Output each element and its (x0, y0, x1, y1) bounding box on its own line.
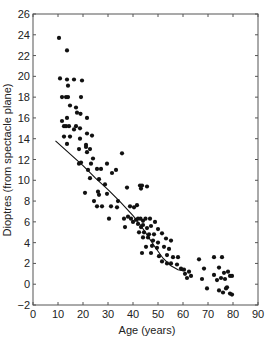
data-point (97, 193, 101, 197)
data-point (95, 167, 99, 171)
data-point (185, 276, 189, 280)
data-point (157, 254, 161, 258)
x-tick-label: 90 (252, 308, 264, 320)
data-point (84, 145, 88, 149)
data-point (149, 224, 153, 228)
data-point (88, 176, 92, 180)
data-point (219, 276, 223, 280)
plot-frame (33, 14, 258, 305)
data-point (114, 168, 118, 172)
y-tick-label: 6 (24, 216, 30, 228)
data-point (77, 147, 81, 151)
data-point (223, 277, 227, 281)
data-point (143, 217, 147, 221)
data-point (221, 290, 225, 294)
x-tick-label: 40 (127, 308, 139, 320)
data-point (160, 259, 164, 263)
data-point (72, 77, 76, 81)
data-point (144, 245, 148, 249)
data-point (176, 255, 180, 259)
data-point (202, 267, 206, 271)
data-point (78, 112, 82, 116)
data-point (92, 199, 96, 203)
data-point (205, 286, 209, 290)
x-tick-label: 20 (77, 308, 89, 320)
data-point (123, 225, 127, 229)
data-point (171, 255, 175, 259)
data-point (215, 278, 219, 282)
data-point (107, 217, 111, 221)
data-point (66, 95, 70, 99)
y-tick-label: 18 (18, 91, 30, 103)
y-tick-label: 2 (24, 257, 30, 269)
data-point (230, 293, 234, 297)
data-point (66, 84, 70, 88)
data-point (220, 255, 224, 259)
data-point (68, 103, 72, 107)
data-point (105, 192, 109, 196)
data-point (162, 245, 166, 249)
data-point (65, 77, 69, 81)
y-tick-label: 14 (18, 133, 30, 145)
data-point (120, 151, 124, 155)
x-tick-label: 10 (52, 308, 64, 320)
data-point (80, 78, 84, 82)
x-tick-label: 0 (30, 308, 36, 320)
data-point (145, 184, 149, 188)
x-axis-title: Age (years) (119, 324, 176, 336)
y-tick-label: −2 (17, 299, 30, 311)
data-point (182, 268, 186, 272)
data-point (140, 251, 144, 255)
y-tick-label: 20 (18, 70, 30, 82)
data-point (222, 271, 226, 275)
y-tick-label: 24 (18, 29, 30, 41)
data-point (217, 266, 221, 270)
y-tick-label: 12 (18, 154, 30, 166)
data-point (141, 223, 145, 227)
data-point (165, 253, 169, 257)
data-point (105, 162, 109, 166)
y-tick-label: 22 (18, 50, 30, 62)
x-tick-label: 30 (102, 308, 114, 320)
data-point (95, 204, 99, 208)
data-point (67, 124, 71, 128)
data-point (142, 230, 146, 234)
y-tick-label: 8 (24, 195, 30, 207)
data-point (91, 156, 95, 160)
plot-border (33, 14, 258, 305)
data-point (153, 220, 157, 224)
data-point (116, 199, 120, 203)
data-point (122, 217, 126, 221)
data-point (155, 246, 159, 250)
data-point (97, 177, 101, 181)
data-point (189, 274, 193, 278)
data-point (156, 227, 160, 231)
data-point (65, 116, 69, 120)
data-point (226, 270, 230, 274)
data-point (128, 204, 132, 208)
data-point (137, 230, 141, 234)
data-point (62, 135, 66, 139)
data-point (152, 232, 156, 236)
data-point (78, 137, 82, 141)
data-point (169, 239, 173, 243)
data-point (83, 191, 87, 195)
y-tick-label: 10 (18, 174, 30, 186)
data-point (100, 204, 104, 208)
data-point (224, 286, 228, 290)
x-tick-label: 50 (152, 308, 164, 320)
data-point (197, 257, 201, 261)
data-point (58, 76, 62, 80)
x-tick-label: 80 (227, 308, 239, 320)
data-point (160, 231, 164, 235)
data-point (57, 36, 61, 40)
data-point (183, 272, 187, 276)
data-point (110, 171, 114, 175)
data-point (156, 241, 160, 245)
data-point (139, 187, 143, 191)
data-point (135, 203, 139, 207)
data-point (90, 134, 94, 138)
data-point (125, 186, 129, 190)
data-point (74, 124, 78, 128)
y-tick-label: 26 (18, 8, 30, 20)
